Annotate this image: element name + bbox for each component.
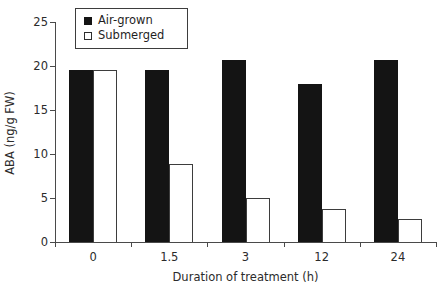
bar-submerged-0h: [93, 70, 117, 242]
x-tick-label-3: 3: [242, 250, 249, 264]
x-tick-mark: [131, 242, 132, 247]
x-tick-mark: [55, 242, 56, 247]
y-tick-label: 0: [41, 235, 48, 249]
x-tick-mark: [207, 242, 208, 247]
x-axis-label: Duration of treatment (h): [55, 270, 436, 284]
aba-bar-chart-figure: ABA (ng/g FW) 0510152025 01.531224 Durat…: [0, 0, 446, 297]
y-axis-label: ABA (ng/g FW): [3, 91, 17, 175]
y-tick-label: 10: [33, 147, 48, 161]
legend-label-submerged: Submerged: [98, 28, 164, 43]
bar-submerged-1-5h: [169, 164, 193, 242]
bar-submerged-12h: [322, 209, 346, 242]
filled-square-marker: [84, 17, 92, 25]
bar-air-grown-3h: [222, 60, 246, 242]
bar-submerged-24h: [398, 219, 422, 242]
x-axis-line: [55, 242, 436, 243]
bar-air-grown-1-5h: [145, 70, 169, 242]
plot-area: [55, 22, 436, 242]
y-tick-label: 25: [33, 15, 48, 29]
legend-item-air-grown: Air-grown: [84, 13, 179, 28]
x-tick-label-24: 24: [391, 250, 406, 264]
x-tick-label-12: 12: [314, 250, 329, 264]
bar-air-grown-12h: [298, 84, 322, 242]
bar-submerged-3h: [246, 198, 270, 242]
x-tick-label-1-5: 1.5: [160, 250, 178, 264]
x-tick-mark: [360, 242, 361, 247]
x-tick-mark: [436, 242, 437, 247]
chart-legend: Air-grown Submerged: [75, 8, 188, 49]
bar-air-grown-0h: [69, 70, 93, 242]
bar-air-grown-24h: [374, 60, 398, 242]
y-tick-label: 15: [33, 103, 48, 117]
open-square-marker: [84, 32, 92, 40]
x-tick-label-0: 0: [89, 250, 96, 264]
y-tick-label: 20: [33, 59, 48, 73]
x-tick-mark: [284, 242, 285, 247]
y-tick-label: 5: [41, 191, 48, 205]
legend-item-submerged: Submerged: [84, 28, 179, 43]
legend-label-air-grown: Air-grown: [98, 13, 153, 28]
